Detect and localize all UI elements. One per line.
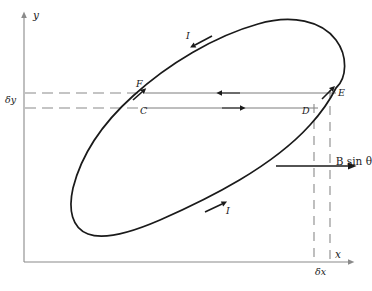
guide-line-group xyxy=(25,93,336,108)
current-direction-arrows xyxy=(133,36,331,212)
diagram-svg xyxy=(0,0,372,291)
point-label-f: F xyxy=(136,79,143,89)
axis-group xyxy=(24,18,348,262)
current-arrow-lower xyxy=(205,204,222,212)
force-magnitude-label: B sin θ xyxy=(336,156,372,167)
current-loop-curve xyxy=(71,19,345,236)
x-axis-label: x xyxy=(335,249,341,260)
vertical-dash-group xyxy=(314,90,330,260)
y-axis-label: y xyxy=(33,10,39,21)
loop-path xyxy=(71,19,345,236)
point-label-e: E xyxy=(338,88,345,98)
current-label-upper: I xyxy=(186,31,190,41)
point-label-d: D xyxy=(302,106,310,116)
delta-y-label: δy xyxy=(5,95,16,105)
point-label-c: C xyxy=(140,106,147,116)
current-label-lower: I xyxy=(226,206,230,216)
delta-x-label: δx xyxy=(315,267,326,277)
figure-canvas: y x δy δx F C D E I I B sin θ xyxy=(0,0,372,291)
